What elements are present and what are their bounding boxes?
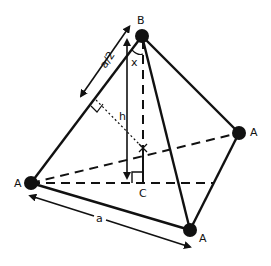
label-A-bottom: A — [199, 232, 207, 245]
vertex-A-bottom-dot — [183, 223, 197, 237]
vertex-A-right-dot — [232, 126, 246, 140]
diagram-canvas: B A A A C x h a/2 a — [0, 0, 271, 266]
edge-B-bottom — [142, 36, 190, 230]
label-x: x — [131, 56, 138, 69]
label-B: B — [137, 14, 145, 27]
edge-arrow-part2 — [106, 220, 190, 247]
edge-right-bottom — [190, 133, 239, 230]
edge-left-bottom — [31, 183, 190, 230]
right-angle-edge — [91, 104, 103, 112]
label-A-right: A — [250, 126, 258, 139]
label-h: h — [119, 110, 126, 123]
right-angle-C — [132, 172, 143, 183]
label-C: C — [139, 187, 147, 200]
edge-B-right — [142, 36, 239, 133]
perpendicular-dotted — [96, 100, 143, 148]
label-a: a — [96, 212, 103, 225]
angle-arc-x — [132, 50, 143, 55]
vertex-B-dot — [135, 29, 149, 43]
tetrahedron-diagram: B A A A C x h a/2 a — [0, 0, 271, 266]
label-A-left: A — [14, 177, 22, 190]
vertex-A-left-dot — [24, 176, 38, 190]
